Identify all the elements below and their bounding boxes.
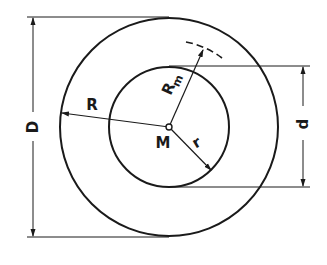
center-point	[166, 124, 172, 130]
annulus-diagram: D d R R m r M	[0, 0, 327, 265]
outer-radius-label: R	[86, 96, 98, 114]
outer-diameter-label: D	[24, 121, 42, 133]
inner-radius-line	[169, 127, 211, 170]
inner-diameter-label: d	[294, 119, 312, 130]
mean-radius-arc	[186, 42, 222, 58]
outer-radius-line	[62, 113, 169, 127]
center-label: M	[156, 134, 171, 152]
mean-radius-label: R m	[158, 70, 186, 99]
